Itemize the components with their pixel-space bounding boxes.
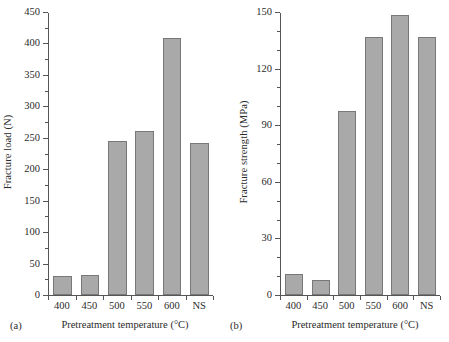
x-tick-label: 500 [103, 299, 131, 315]
panel-a-y-minor-tick [45, 279, 48, 280]
x-tick-label: NS [413, 299, 440, 315]
panel-a-y-tick: 450 [43, 12, 48, 13]
panel-a-y-minor-tick [45, 122, 48, 123]
bar-slot [361, 13, 388, 295]
panel-b-caption: (b) [230, 319, 242, 333]
bar-600[interactable] [391, 15, 409, 295]
panel-a-bars [49, 13, 213, 295]
panel-b-bars [281, 13, 440, 295]
panel-b-y-tick-label: 0 [267, 287, 272, 302]
bar-600[interactable] [163, 38, 182, 295]
bar-450[interactable] [312, 280, 330, 295]
panel-a-y-minor-tick [45, 59, 48, 60]
x-tick-label: NS [186, 299, 214, 315]
panel-b-y-minor-tick [277, 144, 280, 145]
panel-b-y-tick: 120 [275, 69, 280, 70]
bar-slot [104, 13, 131, 295]
bar-slot [76, 13, 103, 295]
panel-a-caption: (a) [10, 319, 22, 333]
bar-NS[interactable] [190, 143, 209, 295]
bar-450[interactable] [81, 275, 100, 295]
panel-a-y-tick: 50 [43, 264, 48, 265]
x-tick-label: 450 [76, 299, 104, 315]
bar-550[interactable] [365, 37, 383, 295]
panel-a-y-tick-label: 250 [24, 130, 40, 145]
bar-slot [186, 13, 213, 295]
panel-a-y-tick: 250 [43, 138, 48, 139]
bar-slot [334, 13, 361, 295]
panel-a-y-minor-tick [45, 185, 48, 186]
panel-b-y-minor-tick [277, 220, 280, 221]
bar-slot [387, 13, 414, 295]
panel-a-plot-area: 050100150200250300350400450 [48, 13, 213, 296]
panel-b-plot-area: 0306090120150 [280, 13, 440, 296]
bar-550[interactable] [135, 131, 154, 295]
x-tick-label: 450 [307, 299, 334, 315]
panel-b-y-tick-label: 30 [262, 230, 273, 245]
bar-slot [158, 13, 185, 295]
panel-a-y-minor-tick [45, 216, 48, 217]
panel-a-y-tick: 200 [43, 169, 48, 170]
bar-500[interactable] [338, 111, 356, 295]
x-tick-label: 550 [131, 299, 159, 315]
x-tick-label: 400 [280, 299, 307, 315]
panel-a-y-tick: 400 [43, 43, 48, 44]
bar-400[interactable] [285, 274, 303, 295]
panel-b-y-minor-tick [277, 106, 280, 107]
panel-a-x-tick-labels: 400450500550600NS [48, 299, 213, 315]
panel-a-y-tick-label: 50 [30, 256, 41, 271]
bar-slot [414, 13, 441, 295]
panel-a-y-tick-label: 150 [24, 193, 40, 208]
panel-b-y-tick: 150 [275, 12, 280, 13]
panel-a-y-tick-label: 400 [24, 35, 40, 50]
panel-b-y-minor-tick [277, 201, 280, 202]
bar-400[interactable] [53, 276, 72, 295]
panel-b-y-tick-label: 90 [262, 117, 273, 132]
panel-a-y-tick-label: 100 [24, 224, 40, 239]
panel-b-y-tick-label: 60 [262, 174, 273, 189]
panel-b-y-minor-tick [277, 87, 280, 88]
x-tick-label: 550 [360, 299, 387, 315]
panel-a-y-tick: 350 [43, 75, 48, 76]
panel-a-y-minor-tick [45, 28, 48, 29]
panel-b-y-tick: 90 [275, 125, 280, 126]
x-tick-label: 500 [333, 299, 360, 315]
bar-500[interactable] [108, 141, 127, 295]
panel-b-y-minor-tick [277, 257, 280, 258]
panel-b-y-minor-tick [277, 31, 280, 32]
figure-two-panel-bar-charts: Fracture load (N) 0501001502002503003504… [0, 0, 449, 342]
panel-b-y-tick-label: 150 [256, 4, 272, 19]
x-tick-label: 600 [158, 299, 186, 315]
panel-a: Fracture load (N) 0501001502002503003504… [0, 0, 224, 342]
panel-a-y-minor-tick [45, 248, 48, 249]
panel-b-x-tick [440, 296, 441, 300]
panel-b-y-axis-title: Fracture strength (MPa) [238, 4, 254, 300]
bar-slot [131, 13, 158, 295]
panel-b-y-minor-tick [277, 276, 280, 277]
panel-a-x-tick [213, 296, 214, 300]
bar-slot [49, 13, 76, 295]
panel-b-y-tick: 60 [275, 182, 280, 183]
panel-b: Fracture strength (MPa) 0306090120150 40… [224, 0, 449, 342]
panel-a-y-tick-label: 300 [24, 98, 40, 113]
x-tick-label: 600 [387, 299, 414, 315]
panel-b-x-axis-title: Pretreatment temperature (°C) [264, 318, 446, 332]
x-tick-label: 400 [48, 299, 76, 315]
panel-a-y-tick-label: 450 [24, 4, 40, 19]
bar-NS[interactable] [418, 37, 436, 295]
panel-a-y-tick: 150 [43, 201, 48, 202]
panel-b-y-tick: 30 [275, 238, 280, 239]
panel-a-y-tick-label: 0 [35, 287, 40, 302]
panel-a-y-tick-label: 350 [24, 67, 40, 82]
panel-b-x-tick-labels: 400450500550600NS [280, 299, 440, 315]
panel-a-y-tick-label: 200 [24, 161, 40, 176]
panel-a-y-minor-tick [45, 154, 48, 155]
panel-a-x-axis-title: Pretreatment temperature (°C) [34, 318, 216, 332]
panel-a-y-minor-tick [45, 91, 48, 92]
panel-a-y-tick: 100 [43, 232, 48, 233]
panel-a-y-axis-title: Fracture load (N) [2, 4, 18, 300]
panel-b-y-tick-label: 120 [256, 61, 272, 76]
bar-slot [281, 13, 308, 295]
bar-slot [308, 13, 335, 295]
panel-a-y-tick: 300 [43, 106, 48, 107]
